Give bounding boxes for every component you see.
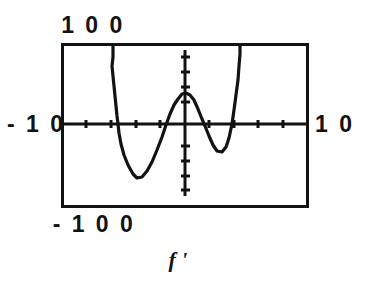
graph-plot-area xyxy=(0,0,366,283)
curve-f-prime xyxy=(112,44,240,178)
figure-caption: f ' xyxy=(0,249,366,271)
figure-derivative-graph: 1 0 0 - 1 0 0 - 1 0 1 0 xyxy=(0,0,366,283)
